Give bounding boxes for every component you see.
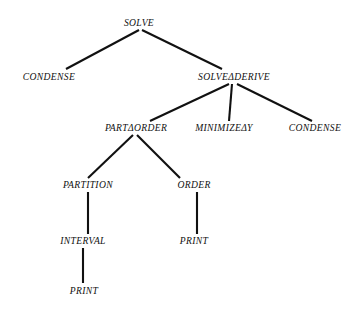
- node-layer: SOLVECONDENSESOLVEΔDERIVEPARTΔORDERMINIM…: [0, 0, 357, 310]
- tree-node-condense[interactable]: CONDENSE: [289, 123, 341, 133]
- tree-node-print[interactable]: PRINT: [70, 286, 98, 296]
- tree-node-part-order[interactable]: PARTΔORDER: [105, 123, 167, 133]
- tree-diagram: SOLVECONDENSESOLVEΔDERIVEPARTΔORDERMINIM…: [0, 0, 357, 310]
- tree-node-interval[interactable]: INTERVAL: [60, 236, 106, 246]
- tree-node-partition[interactable]: PARTITION: [63, 180, 113, 190]
- tree-node-minimize-y[interactable]: MINIMIZEΔY: [195, 123, 253, 133]
- tree-node-condense[interactable]: CONDENSE: [23, 72, 75, 82]
- tree-node-solve[interactable]: SOLVE: [124, 18, 154, 28]
- tree-node-print[interactable]: PRINT: [180, 236, 208, 246]
- tree-node-order[interactable]: ORDER: [177, 180, 210, 190]
- tree-node-solve-derive[interactable]: SOLVEΔDERIVE: [198, 72, 270, 82]
